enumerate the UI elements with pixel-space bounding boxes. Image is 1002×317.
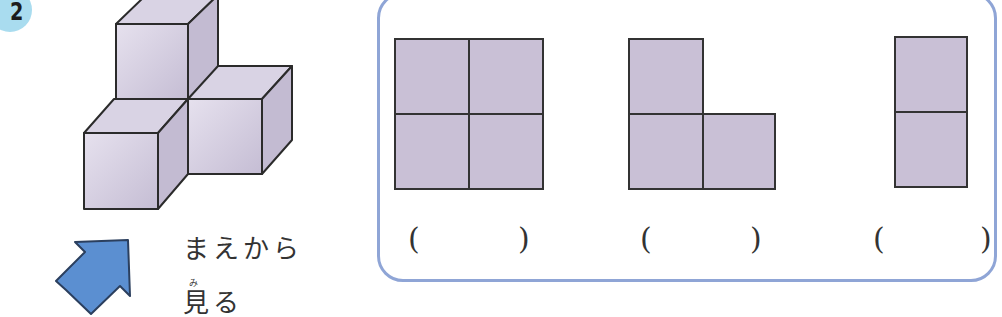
answer-close-1: ) <box>518 221 530 256</box>
caption-line2: 見る <box>183 282 243 317</box>
answer-close-2: ) <box>750 221 762 256</box>
answer-blank-1[interactable] <box>430 222 515 260</box>
cube-stack-illustration <box>0 0 370 317</box>
answer-open-2: ( <box>640 221 652 256</box>
answer-blank-2[interactable] <box>662 222 747 260</box>
caption-line1: まえから <box>183 228 303 265</box>
answer-blank-3[interactable] <box>895 222 977 260</box>
answer-open-1: ( <box>408 221 420 256</box>
answer-close-3: ) <box>980 221 992 256</box>
view-direction-arrow-icon <box>56 240 130 314</box>
answer-open-3: ( <box>873 221 885 256</box>
